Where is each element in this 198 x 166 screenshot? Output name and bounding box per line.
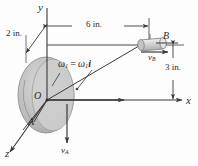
velocity-b-sub: B [152,56,156,62]
omega-symbol: ω [58,58,65,69]
dim-3in-graphic [166,45,184,99]
origin-label: O [34,91,41,101]
x-axis-label: x [186,95,191,106]
dim-6in-label: 6 in. [86,20,102,29]
dim-3in-label: 3 in. [165,63,181,72]
dim-2in-label: 2 in. [6,29,22,38]
velocity-a-sub: A [65,149,69,155]
omega-annotation: ω1=ω1i [58,59,91,70]
z-axis-label: z [5,148,9,159]
point-a-label: A [28,117,34,127]
y-axis-label: y [38,2,43,13]
velocity-b-label: vB [148,53,156,63]
omega-magnitude: ω [78,58,85,69]
point-b-label: B [163,31,169,41]
kinematics-figure: y x z O A B 2 in. 6 in. 3 in. vA vB ω1=ω… [0,0,198,166]
velocity-a-label: vA [61,146,69,156]
omega-equals: = [68,58,78,69]
omega-unit-vector: i [88,58,91,69]
origin-dot [46,99,49,102]
